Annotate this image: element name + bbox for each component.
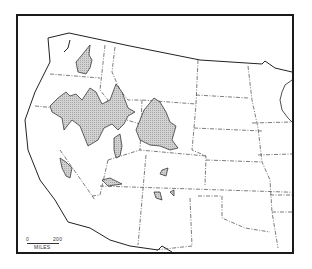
western-us-map	[0, 0, 312, 269]
shaded-regions	[50, 45, 178, 200]
scale-bar: 0 200 MILES	[26, 236, 66, 252]
scale-end-label: 200	[53, 236, 62, 242]
scale-start-label: 0	[26, 236, 29, 242]
scale-unit-label: MILES	[34, 244, 51, 250]
